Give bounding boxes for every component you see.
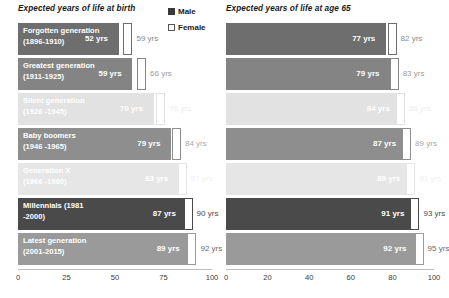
bar-value-male: 92 yrs [383, 244, 406, 253]
bar-female [396, 93, 405, 125]
bar-value-female: 87 yrs [191, 174, 213, 183]
bar-row: 84 yrs86 yrs [226, 93, 434, 125]
axis-tick-label: 20 [263, 273, 271, 282]
axis-tick-label: 100 [206, 273, 219, 282]
bar-female [388, 23, 397, 55]
bar-row: 79 yrs83 yrs [226, 58, 434, 90]
chart-title-age65: Expected years of life at age 65 [226, 4, 351, 13]
bar-female [187, 233, 196, 265]
bar-value-female: 93 yrs [423, 209, 445, 218]
axis-tick-label: 75 [159, 273, 167, 282]
bar-female [123, 23, 132, 55]
bar-female [415, 233, 424, 265]
legend-item-male: Male [168, 7, 228, 16]
bar-value-female: 89 yrs [415, 139, 437, 148]
axis-tick-label: 50 [111, 273, 119, 282]
bar-female [156, 93, 165, 125]
axis-tick-label: 0 [16, 273, 20, 282]
plot-area-birth: 52 yrs59 yrsForgotten generation (1896-1… [18, 23, 212, 267]
bar-row: 83 yrs87 yrsGeneration X (1966 -1980) [18, 163, 212, 195]
axis-line [226, 269, 434, 270]
axis-tick-label: 100 [428, 273, 441, 282]
bar-value-female: 59 yrs [136, 34, 158, 43]
bar-row: 87 yrs90 yrsMillennials (1981 -2000) [18, 198, 212, 230]
bar-value-female: 82 yrs [401, 34, 423, 43]
axis-tick-label: 25 [62, 273, 70, 282]
bar-value-female: 95 yrs [428, 244, 449, 253]
bar-value-male: 84 yrs [367, 104, 390, 113]
bar-value-female: 91 yrs [419, 174, 441, 183]
bar-female [402, 128, 411, 160]
bar-row: 87 yrs89 yrs [226, 128, 434, 160]
bar-row: 70 yrs76 yrsSilent generation (1926 -194… [18, 93, 212, 125]
bar-value-male: 70 yrs [120, 104, 143, 113]
bar-female [137, 58, 146, 90]
bar-row: 92 yrs95 yrs [226, 233, 434, 265]
bar-female [390, 58, 399, 90]
bar-value-male: 89 yrs [377, 174, 400, 183]
x-axis-age65: 020406080100 [226, 269, 434, 289]
axis-tick-label: 40 [305, 273, 313, 282]
bar-value-male: 87 yrs [373, 139, 396, 148]
axis-tick-label: 80 [388, 273, 396, 282]
axis-tick-label: 60 [347, 273, 355, 282]
bar-value-male: 89 yrs [157, 244, 180, 253]
bar-value-female: 66 yrs [150, 69, 172, 78]
bar-female [410, 198, 419, 230]
bar-value-female: 92 yrs [200, 244, 222, 253]
plot-area-age65: 77 yrs82 yrs79 yrs83 yrs84 yrs86 yrs87 y… [226, 23, 434, 267]
bar-female [406, 163, 415, 195]
bar-value-female: 84 yrs [185, 139, 207, 148]
bar-value-male: 52 yrs [85, 34, 108, 43]
bar-value-male: 91 yrs [381, 209, 404, 218]
bar-row: 79 yrs84 yrsBaby boomers (1946 -1965) [18, 128, 212, 160]
bar-row: 77 yrs82 yrs [226, 23, 434, 55]
bar-value-male: 79 yrs [137, 139, 160, 148]
bar-value-female: 76 yrs [169, 104, 191, 113]
bar-row: 89 yrs91 yrs [226, 163, 434, 195]
legend-swatch-male-icon [168, 8, 175, 15]
chart-panel-birth: Expected years of life at birth Male Fem… [0, 0, 223, 298]
bar-female [172, 128, 181, 160]
bar-female [178, 163, 187, 195]
bar-value-male: 79 yrs [356, 69, 379, 78]
bar-value-female: 90 yrs [197, 209, 219, 218]
bar-female [184, 198, 193, 230]
bar-row: 89 yrs92 yrsLatest generation (2001-2015… [18, 233, 212, 265]
chart-panel-age65: Expected years of life at age 65 77 yrs8… [223, 0, 446, 298]
legend-label-male: Male [178, 7, 196, 16]
bar-value-male: 59 yrs [98, 69, 121, 78]
bar-value-male: 83 yrs [145, 174, 168, 183]
chart-title-birth: Expected years of life at birth [18, 4, 135, 13]
bar-value-female: 83 yrs [403, 69, 425, 78]
axis-tick-label: 0 [224, 273, 228, 282]
bar-value-female: 86 yrs [409, 104, 431, 113]
bar-row: 52 yrs59 yrsForgotten generation (1896-1… [18, 23, 212, 55]
bar-row: 59 yrs66 yrsGreatest generation (1911-19… [18, 58, 212, 90]
x-axis-birth: 0255075100 [18, 269, 212, 289]
bar-value-male: 87 yrs [153, 209, 176, 218]
bar-row: 91 yrs93 yrs [226, 198, 434, 230]
axis-line [18, 269, 212, 270]
bar-value-male: 77 yrs [352, 34, 375, 43]
